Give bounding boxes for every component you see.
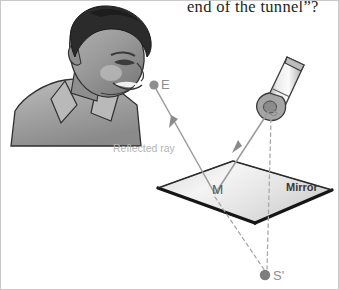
virtual-image-marker — [260, 270, 270, 280]
label-source-point: S — [269, 104, 278, 119]
label-mirror: Mirror — [286, 181, 318, 193]
label-eye-point: E — [161, 77, 170, 92]
label-mirror-point: M — [212, 182, 223, 197]
flashlight-icon — [257, 57, 304, 120]
label-virtual-image-point: S' — [273, 268, 284, 283]
eye-point-marker — [149, 80, 158, 89]
boy-illustration — [11, 6, 151, 146]
label-reflected-ray: Reflected ray — [113, 142, 175, 154]
figure-container: end of the tunnel”? — [0, 0, 339, 290]
